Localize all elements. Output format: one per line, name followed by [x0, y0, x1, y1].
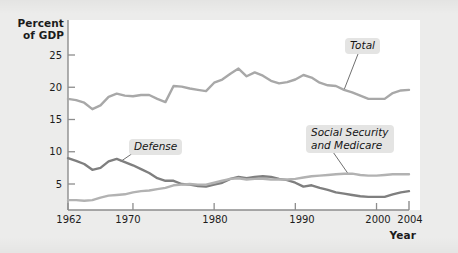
y-tick-label-5: 5: [38, 179, 62, 190]
x-tick-label-1980: 1980: [194, 214, 236, 225]
series-annotation-social-security-and-medicare: Social Security and Medicare: [306, 125, 394, 153]
x-tick-label-2004: 2004: [389, 214, 431, 225]
y-tick-label-10: 10: [38, 146, 62, 157]
x-tick-label-1962: 1962: [48, 214, 90, 225]
x-axis-title: Year: [356, 230, 416, 242]
y-tick-label-20: 20: [38, 82, 62, 93]
y-tick-label-15: 15: [38, 114, 62, 125]
x-tick-label-1990: 1990: [281, 214, 323, 225]
series-annotation-total: Total: [345, 38, 380, 54]
y-tick-label-25: 25: [38, 50, 62, 61]
y-axis-title: Percent of GDP: [8, 18, 64, 41]
annotation-leader-lines: [121, 54, 358, 174]
chart-figure: Percent of GDP Year 25 20 15 10 5 1962 1…: [0, 0, 458, 253]
x-tick-label-1970: 1970: [107, 214, 149, 225]
series-annotation-defense: Defense: [129, 139, 182, 155]
